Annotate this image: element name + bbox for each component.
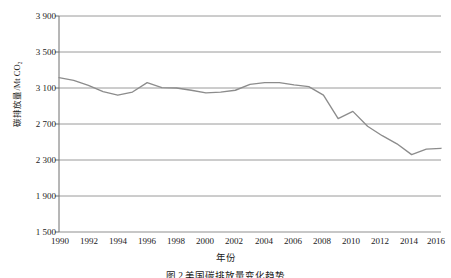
y-tick-label: 3 100 xyxy=(12,84,56,93)
y-tick-label: 1 900 xyxy=(12,192,56,201)
data-series-line xyxy=(59,78,441,155)
x-axis-tick-labels: 1990 1992 1994 1996 1998 2000 2002 2004 … xyxy=(0,236,451,250)
series-polyline xyxy=(59,78,441,155)
gridlines xyxy=(59,16,441,232)
y-tick-label: 3 900 xyxy=(12,12,56,21)
x-tick-label: 2016 xyxy=(416,236,451,246)
y-tick-label: 2 300 xyxy=(12,156,56,165)
y-tick-label: 3 500 xyxy=(12,48,56,57)
figure-caption: 图 2 美国碳排放量变化趋势 xyxy=(0,268,451,278)
x-axis-label: 年份 xyxy=(0,250,451,264)
y-tick-label: 2 700 xyxy=(12,120,56,129)
y-axis-tick-labels: 3 900 3 500 3 100 2 700 2 300 1 900 1 50… xyxy=(10,0,56,240)
chart-figure: 碳排放量/Mt CO₂ 3 900 3 500 3 100 2 700 2 30… xyxy=(0,0,451,278)
